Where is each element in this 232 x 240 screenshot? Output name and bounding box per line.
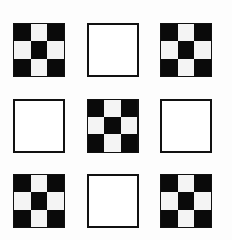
black-cell bbox=[178, 192, 195, 209]
white-cell bbox=[47, 192, 64, 209]
black-cell bbox=[121, 100, 138, 117]
white-cell bbox=[31, 24, 48, 41]
white-cell bbox=[104, 134, 121, 151]
white-cell bbox=[31, 59, 48, 76]
black-cell bbox=[88, 134, 105, 151]
checker-tile bbox=[13, 23, 65, 77]
white-cell bbox=[178, 175, 195, 192]
black-cell bbox=[194, 24, 211, 41]
plain-square-tile bbox=[87, 23, 139, 77]
white-cell bbox=[161, 41, 178, 58]
white-cell bbox=[47, 41, 64, 58]
black-cell bbox=[31, 41, 48, 58]
black-cell bbox=[14, 210, 31, 227]
black-cell bbox=[161, 210, 178, 227]
white-cell bbox=[194, 192, 211, 209]
black-cell bbox=[47, 175, 64, 192]
black-cell bbox=[14, 175, 31, 192]
checker-tile bbox=[160, 174, 212, 228]
black-cell bbox=[88, 100, 105, 117]
black-cell bbox=[31, 192, 48, 209]
plain-square-tile bbox=[160, 99, 212, 153]
white-cell bbox=[104, 100, 121, 117]
black-cell bbox=[14, 24, 31, 41]
white-cell bbox=[178, 24, 195, 41]
white-cell bbox=[14, 192, 31, 209]
plain-square-tile bbox=[13, 99, 65, 153]
white-cell bbox=[178, 59, 195, 76]
black-cell bbox=[47, 59, 64, 76]
black-cell bbox=[121, 134, 138, 151]
black-cell bbox=[194, 210, 211, 227]
white-cell bbox=[121, 117, 138, 134]
black-cell bbox=[104, 117, 121, 134]
black-cell bbox=[47, 210, 64, 227]
black-cell bbox=[14, 59, 31, 76]
black-cell bbox=[47, 24, 64, 41]
black-cell bbox=[161, 59, 178, 76]
white-cell bbox=[14, 41, 31, 58]
white-cell bbox=[161, 192, 178, 209]
checker-tile bbox=[13, 174, 65, 228]
black-cell bbox=[178, 41, 195, 58]
checker-tile bbox=[87, 99, 139, 153]
checker-tile bbox=[160, 23, 212, 77]
white-cell bbox=[88, 117, 105, 134]
black-cell bbox=[161, 24, 178, 41]
white-cell bbox=[31, 175, 48, 192]
white-cell bbox=[178, 210, 195, 227]
black-cell bbox=[194, 175, 211, 192]
black-cell bbox=[161, 175, 178, 192]
black-cell bbox=[194, 59, 211, 76]
white-cell bbox=[31, 210, 48, 227]
plain-square-tile bbox=[87, 174, 139, 228]
white-cell bbox=[194, 41, 211, 58]
